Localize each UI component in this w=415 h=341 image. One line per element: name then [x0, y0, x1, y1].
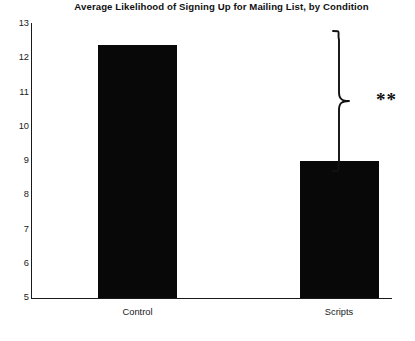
bar-chart-figure: Average Likelihood of Signing Up for Mai… [0, 0, 415, 341]
x-axis-tick-label: Scripts [325, 307, 353, 317]
bar-control [98, 45, 177, 298]
bar-scripts [300, 161, 379, 298]
x-axis-tick-label: Control [123, 307, 153, 317]
significance-marker: ** [376, 90, 397, 109]
significance-brace-icon [330, 30, 356, 172]
